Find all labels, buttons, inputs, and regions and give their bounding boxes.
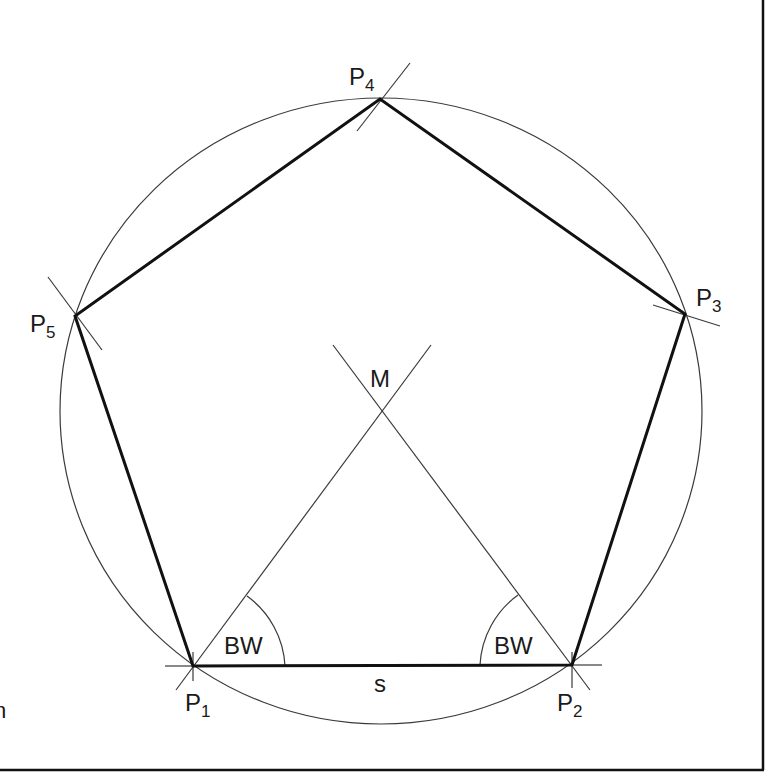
center-label-m: M [370, 365, 390, 392]
vertex-label-p1: P1 [185, 689, 210, 721]
construction-line-p2-m [333, 345, 590, 690]
circumscribed-circle [60, 98, 702, 724]
p5-arc-mark [48, 277, 102, 350]
angle-label-bw-left: BW [224, 632, 263, 659]
vertex-label-p4: P4 [349, 63, 374, 95]
angle-label-bw-right: BW [494, 632, 533, 659]
side-label-s: s [374, 670, 386, 697]
clipped-edge-marker: n [0, 698, 6, 723]
vertex-label-p3: P3 [696, 284, 721, 316]
vertex-label-p2: P2 [557, 689, 582, 721]
vertex-label-p5: P5 [30, 310, 55, 342]
construction-line-p1-m [176, 345, 431, 690]
pentagon-diagram: P4 P5 P3 P1 P2 M s BW BW n [0, 0, 769, 777]
